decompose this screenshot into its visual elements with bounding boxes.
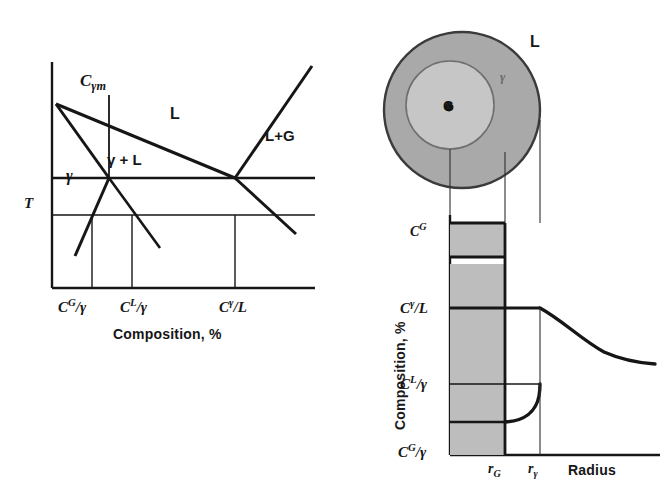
circle-label-gamma: γ [500,70,505,83]
xtick2-rest: /L [234,299,247,315]
marker-label-subscript: γm [91,79,106,93]
profile-xtick-rgamma: rγ [528,462,538,479]
ytick0-sup: G [419,221,426,232]
circle-label-G: G [443,99,454,113]
xtickrg-sub: γ [533,468,537,479]
phase-diagram-xtick-2: Cγ/L [219,297,247,315]
marker-label-base: C [80,71,91,90]
profile-bar-segment-lower [450,384,505,422]
xtick1-base: C [120,299,130,315]
liquidus-extension-line [235,178,296,234]
profile-bar-segment-bottom [450,422,505,455]
circle-label-L: L [530,34,540,50]
profile-curve-gamma-shell [505,384,540,422]
profile-bar-segment-middle [450,308,505,384]
ytick2-sup: L [410,373,417,385]
phase-diagram-xaxis-title: Composition, % [113,327,222,341]
xtick1-sup: L [130,296,137,308]
profile-bar-segment-upper [450,264,505,308]
ytick2-base: C [400,376,410,392]
particle-schematic-group [384,32,540,223]
profile-xaxis-title: Radius [568,463,616,477]
phase-diagram-group [52,62,315,288]
xtick0-base: C [58,299,68,315]
region-label-gamma-plus-L: γ + L [107,152,142,167]
xtick0-sup: G [68,296,76,308]
profile-ytick-1: Cγ/L [400,298,428,316]
xtickrG-sub: G [493,468,500,479]
region-label-gamma: γ [66,168,73,184]
region-label-L: L [170,106,180,122]
ytick3-rest: /γ [416,444,426,460]
metastable-liquidus-extension-line [109,178,160,248]
profile-curve-liquid [540,308,655,364]
profile-ytick-0: CG [410,222,427,239]
profile-ytick-2: CL/γ [400,374,427,392]
profile-ytick-3: CG/γ [398,442,426,460]
xtick1-rest: /γ [137,299,147,315]
profile-xtick-rG: rG [488,462,501,479]
xtick2-base: C [219,299,229,315]
profile-bar-segment-top [450,223,505,257]
ytick3-base: C [398,444,408,460]
marker-label-Cgamma-m: Cγm [80,72,106,93]
concentration-profile-group [450,215,660,455]
ytick2-rest: /γ [417,376,427,392]
phase-diagram-xtick-0: CG/γ [58,297,86,315]
ytick0-base: C [410,224,419,239]
figure-root: T γ γ + L L L+G Cγm CG/γ CL/γ Cγ/L Compo… [0,0,666,493]
ytick1-rest: /L [415,300,428,316]
phase-diagram-xtick-1: CL/γ [120,297,147,315]
ytick1-base: C [400,300,410,316]
xtick0-rest: /γ [76,299,86,315]
LG-boundary-line [235,66,312,178]
region-label-L-plus-G: L+G [265,128,295,143]
ytick3-sup: G [408,441,416,453]
phase-diagram-ylabel-T: T [24,196,33,211]
